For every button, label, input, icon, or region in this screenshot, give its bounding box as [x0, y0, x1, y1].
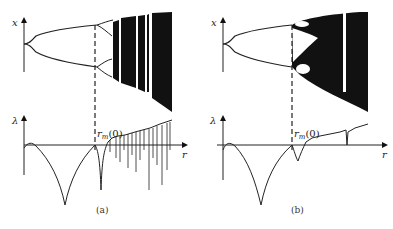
x-axis-label-b: x	[211, 17, 217, 28]
x-axis-label-a: x	[12, 17, 18, 28]
r-axis-label-a: r	[182, 149, 188, 160]
lambda-axis-label-a: λ	[11, 115, 18, 126]
marker-label-a: rm(0)	[97, 128, 123, 141]
marker-label-b: rm(0)	[294, 128, 320, 141]
figure: x λ r	[0, 0, 393, 229]
panel-b: x λ r rm(0) (b)	[209, 12, 388, 215]
caption-b: (b)	[291, 205, 304, 215]
panel-a: x λ r	[11, 12, 188, 215]
lambda-axis-label-b: λ	[209, 115, 216, 126]
caption-a: (a)	[96, 205, 108, 215]
r-axis-label-b: r	[382, 149, 388, 160]
